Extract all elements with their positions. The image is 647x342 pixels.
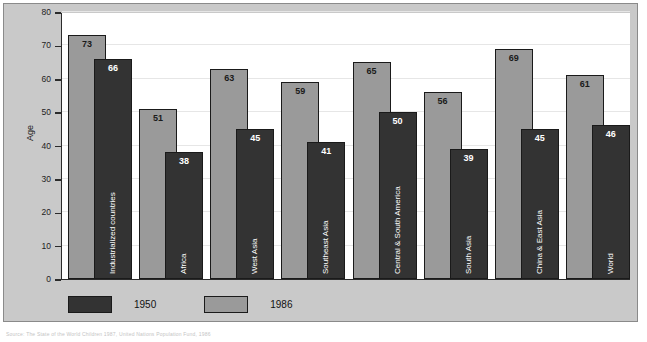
legend-swatch	[204, 296, 248, 313]
y-axis-tick-label: 0	[25, 275, 51, 284]
legend-item: 1986	[204, 296, 292, 313]
bar-1950: 50Central & South America	[379, 112, 417, 279]
bar-value-label: 41	[308, 146, 344, 157]
bar-1950: 41Southeast Asia	[307, 142, 345, 279]
y-axis-tick-label: 10	[25, 242, 51, 251]
bar-1950: 38Africa	[165, 152, 203, 279]
y-axis-tick-label: 30	[25, 175, 51, 184]
bar-value-label: 39	[451, 153, 487, 164]
bar-value-label: 38	[166, 156, 202, 167]
bar-1950: 46World	[592, 125, 630, 279]
legend: 19501986	[68, 296, 341, 313]
bar-value-label: 59	[282, 86, 318, 97]
legend-label: 1986	[270, 299, 292, 310]
legend-item: 1950	[68, 296, 156, 313]
bar-value-label: 69	[496, 53, 532, 64]
source-caption: Source: The State of the World Children …	[6, 331, 626, 337]
bar-group: 5941Southeast Asia	[275, 13, 346, 279]
bar-value-label: 63	[211, 73, 247, 84]
bar-value-label: 45	[522, 133, 558, 144]
category-label: Southeast Asia	[321, 221, 330, 274]
bar-group: 6550Central & South America	[347, 13, 418, 279]
bar-value-label: 46	[593, 129, 629, 140]
bar-value-label: 61	[567, 79, 603, 90]
category-label: World	[606, 253, 615, 274]
bar-value-label: 45	[237, 133, 273, 144]
bar-value-label: 73	[69, 39, 105, 50]
category-label: South Asia	[464, 236, 473, 274]
plot-area: 7366Industrialized countries5138Africa63…	[61, 13, 630, 280]
bar-value-label: 56	[425, 96, 461, 107]
bar-1950: 45China & East Asia	[521, 129, 559, 279]
bar-value-label: 66	[95, 63, 131, 74]
chart-panel: Age 01020304050607080 7366Industrialized…	[3, 3, 638, 322]
figure: Age 01020304050607080 7366Industrialized…	[0, 0, 647, 342]
y-axis-tick-label: 50	[25, 108, 51, 117]
bar-group: 6945China & East Asia	[489, 13, 560, 279]
legend-swatch	[68, 296, 112, 313]
y-axis: 01020304050607080	[4, 4, 61, 321]
bar-1950: 45West Asia	[236, 129, 274, 279]
category-label: Africa	[179, 254, 188, 274]
gridline	[62, 11, 630, 12]
bar-group: 7366Industrialized countries	[62, 13, 133, 279]
category-label: West Asia	[250, 239, 259, 274]
category-label: Central & South America	[393, 186, 402, 274]
bar-group: 6146World	[560, 13, 631, 279]
bar-value-label: 50	[380, 116, 416, 127]
category-label: Industrialized countries	[108, 192, 117, 274]
bar-group: 5138Africa	[133, 13, 204, 279]
y-axis-tick-label: 70	[25, 41, 51, 50]
bar-value-label: 51	[140, 113, 176, 124]
y-axis-tick-label: 60	[25, 75, 51, 84]
bar-group: 5639South Asia	[418, 13, 489, 279]
bar-1950: 66Industrialized countries	[94, 59, 132, 279]
legend-label: 1950	[134, 299, 156, 310]
y-axis-tick-label: 40	[25, 142, 51, 151]
bar-value-label: 65	[354, 66, 390, 77]
y-axis-tick-label: 80	[25, 8, 51, 17]
bar-1950: 39South Asia	[450, 149, 488, 279]
bar-group: 6345West Asia	[204, 13, 275, 279]
y-axis-tick-label: 20	[25, 208, 51, 217]
category-label: China & East Asia	[535, 210, 544, 274]
